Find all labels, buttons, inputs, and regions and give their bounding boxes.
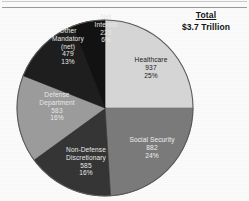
pie-svg: [14, 11, 196, 199]
legend-total-value: $3.7 Trillion: [169, 22, 243, 33]
legend-total-label: Total: [169, 10, 243, 21]
header-rule-upper: [2, 1, 247, 2]
chart-legend: Total $3.7 Trillion: [169, 10, 243, 32]
pie-chart-figure: Healthcare 937 25% Social Security 882 2…: [0, 0, 249, 201]
pie-chart-graphic: Healthcare 937 25% Social Security 882 2…: [14, 11, 196, 199]
pie-slice-healthcare: [105, 20, 193, 108]
header-rule: [2, 7, 247, 8]
pie-slice-social-security: [105, 108, 193, 196]
